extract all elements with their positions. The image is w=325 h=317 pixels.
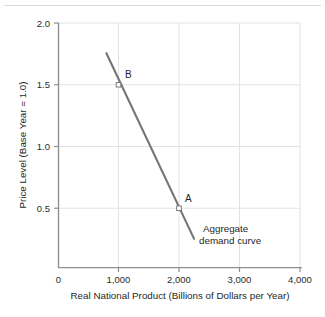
x-tick-label-4000: 4,000	[288, 274, 312, 285]
x-tick-label-3000: 3,000	[228, 274, 252, 285]
aggregate-demand-chart: 2.0 1.5 1.0 0.5 0 1,000 2,000 3,000 4,00…	[0, 0, 325, 317]
aggregate-demand-figure: 2.0 1.5 1.0 0.5 0 1,000 2,000 3,000 4,00…	[0, 0, 325, 317]
y-tick-label-2-0: 2.0	[37, 18, 50, 29]
y-axis-title: Price Level (Base Year = 1.0)	[17, 81, 28, 208]
data-point-a-label: A	[185, 193, 192, 204]
x-axis-title: Real National Product (Billions of Dolla…	[71, 290, 290, 301]
x-tick-label-0: 0	[56, 274, 61, 285]
curve-annotation-line-1: Aggregate	[203, 223, 249, 234]
data-point-a-marker	[177, 206, 182, 211]
data-point-b-marker	[116, 82, 121, 87]
y-tick-label-0-5: 0.5	[37, 203, 50, 214]
x-tick-label-1000: 1,000	[107, 274, 131, 285]
x-tick-label-2000: 2,000	[167, 274, 191, 285]
curve-annotation-line-2: demand curve	[199, 235, 262, 246]
y-tick-label-1-0: 1.0	[37, 141, 50, 152]
data-point-b-label: B	[125, 69, 132, 80]
y-tick-label-1-5: 1.5	[37, 79, 50, 90]
axis-lines	[58, 23, 302, 268]
gridlines	[58, 23, 300, 268]
